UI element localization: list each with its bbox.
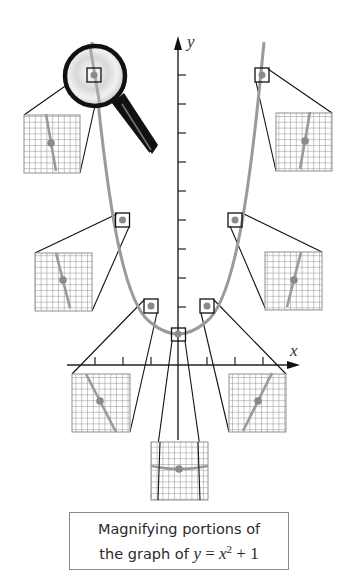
magnified-panel-low-left xyxy=(72,374,130,432)
magnified-panel-upper-right xyxy=(276,112,332,171)
caption-var-x: x xyxy=(219,543,227,562)
caption-line-1: Magnifying portions of xyxy=(98,519,260,539)
magnified-panel-vertex xyxy=(151,442,208,500)
caption-box: Magnifying portions of the graph of y = … xyxy=(69,512,289,570)
magnified-panel-mid-right xyxy=(265,252,322,310)
caption-equals: = xyxy=(201,543,219,562)
caption-line-2: the graph of y = x2 + 1 xyxy=(99,539,258,564)
caption-suffix: + 1 xyxy=(232,543,259,562)
sample-box-mid-left xyxy=(116,213,130,227)
magnified-panel-low-right xyxy=(229,373,286,432)
parabola-magnification-diagram: y x xyxy=(0,0,346,580)
magnified-panel-upper-left xyxy=(24,114,80,173)
caption-var-y: y xyxy=(193,543,201,562)
sample-box-mid-right xyxy=(228,213,242,227)
y-axis-label: y xyxy=(185,32,195,51)
y-axis-ticks xyxy=(178,75,186,307)
sample-box-low-right xyxy=(200,299,214,313)
magnified-panel-mid-left xyxy=(35,253,92,311)
caption-prefix: the graph of xyxy=(99,545,193,561)
x-axis-ticks xyxy=(95,357,263,365)
x-axis-label: x xyxy=(289,341,298,360)
sample-box-low-left xyxy=(144,299,158,313)
